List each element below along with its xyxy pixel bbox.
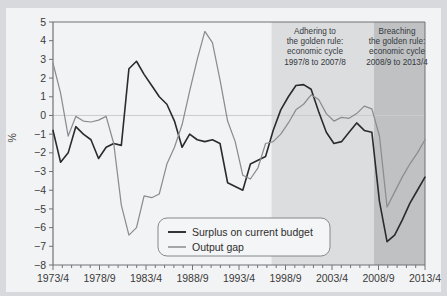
chart-figure: 543210−1−2−3−4−5−6−7−8%1973/41978/91983/… bbox=[0, 0, 447, 296]
y-tick-label: −7 bbox=[34, 240, 46, 252]
x-tick-label: 2008/9 bbox=[362, 272, 394, 284]
y-tick-label: −4 bbox=[34, 184, 46, 196]
y-tick-label: 5 bbox=[40, 16, 46, 28]
y-tick-label: 3 bbox=[40, 53, 46, 65]
annotation-line: the golden rule: bbox=[287, 37, 343, 46]
chart-legend: Surplus on current budgetOutput gap bbox=[158, 218, 330, 256]
annotation-line: Adhering to bbox=[294, 27, 336, 36]
x-tick-label: 1993/4 bbox=[223, 272, 255, 284]
line-chart: 543210−1−2−3−4−5−6−7−8%1973/41978/91983/… bbox=[0, 0, 447, 296]
annotation-line: Breaching bbox=[379, 27, 416, 36]
annotation-line: the golden rule: bbox=[369, 37, 425, 46]
annotation-line: 1997/8 to 2007/8 bbox=[284, 58, 346, 67]
y-tick-label: −8 bbox=[34, 259, 46, 271]
x-tick-label: 1998/9 bbox=[269, 272, 301, 284]
y-tick-label: −2 bbox=[34, 146, 46, 158]
y-tick-label: −6 bbox=[34, 221, 46, 233]
x-tick-label: 2003/4 bbox=[316, 272, 348, 284]
x-tick-label: 1983/4 bbox=[130, 272, 162, 284]
x-tick-label: 2013/4 bbox=[409, 272, 441, 284]
x-tick-label: 1978/9 bbox=[83, 272, 115, 284]
y-tick-label: −3 bbox=[34, 165, 46, 177]
x-tick-label: 1988/9 bbox=[176, 272, 208, 284]
y-axis-title: % bbox=[6, 133, 18, 142]
annotation-line: 2008/9 to 2013/4 bbox=[366, 58, 428, 67]
annotation-line: economic cycle bbox=[369, 47, 425, 56]
annotation-line: economic cycle bbox=[287, 47, 343, 56]
y-tick-label: 2 bbox=[40, 72, 46, 84]
legend-label: Surplus on current budget bbox=[192, 226, 313, 238]
y-tick-label: −5 bbox=[34, 203, 46, 215]
y-tick-label: 4 bbox=[40, 34, 46, 46]
y-tick-label: 1 bbox=[40, 90, 46, 102]
x-tick-label: 1973/4 bbox=[37, 272, 69, 284]
y-tick-label: 0 bbox=[40, 109, 46, 121]
legend-label: Output gap bbox=[192, 241, 244, 253]
y-tick-label: −1 bbox=[34, 128, 46, 140]
